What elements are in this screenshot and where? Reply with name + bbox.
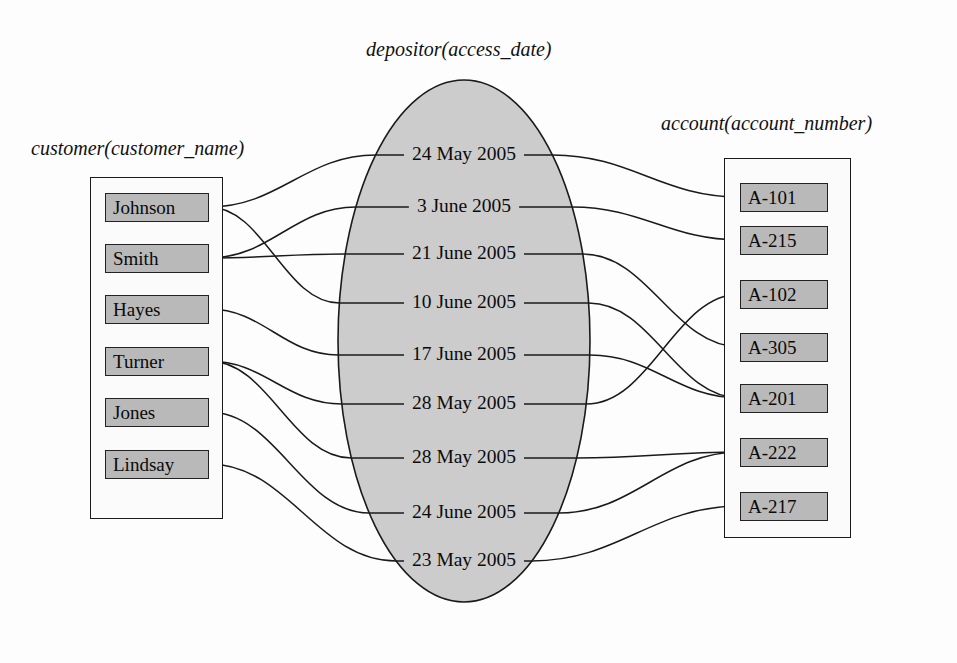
depositor-value-1[interactable]: 3 June 2005	[417, 195, 511, 217]
edge-date-account-5	[586, 294, 740, 404]
account-entity-title: account(account_number)	[661, 112, 872, 135]
depositor-value-4[interactable]: 17 June 2005	[412, 343, 516, 365]
edge-customer-date-4	[209, 309, 338, 355]
customer-value-3[interactable]: Turner	[105, 347, 209, 376]
depositor-relationship-title: depositor(access_date)	[366, 38, 552, 61]
account-value-3[interactable]: A-305	[740, 333, 828, 362]
edge-date-account-3	[589, 303, 740, 398]
edge-date-account-8	[532, 506, 740, 561]
customer-value-4[interactable]: Jones	[105, 398, 209, 427]
edge-date-account-1	[572, 207, 740, 240]
account-value-6[interactable]: A-217	[740, 492, 828, 521]
depositor-value-5[interactable]: 28 May 2005	[412, 392, 516, 414]
customer-value-1[interactable]: Smith	[105, 244, 209, 273]
customer-entity-title: customer(customer_name)	[31, 137, 244, 160]
customer-value-0[interactable]: Johnson	[105, 193, 209, 222]
edge-customer-date-5	[209, 361, 342, 404]
edge-customer-date-0	[209, 155, 376, 207]
edge-customer-date-6	[209, 361, 351, 458]
depositor-value-7[interactable]: 24 June 2005	[412, 501, 516, 523]
customer-value-5[interactable]: Lindsay	[105, 450, 209, 479]
edge-date-account-0	[552, 155, 740, 197]
depositor-value-2[interactable]: 21 June 2005	[412, 242, 516, 264]
depositor-value-0[interactable]: 24 May 2005	[412, 143, 516, 165]
account-value-4[interactable]: A-201	[740, 384, 828, 413]
depositor-value-8[interactable]: 23 May 2005	[412, 549, 516, 571]
depositor-value-6[interactable]: 28 May 2005	[412, 446, 516, 468]
edge-date-account-2	[583, 254, 740, 347]
edge-date-account-7	[559, 452, 740, 513]
depositor-value-3[interactable]: 10 June 2005	[412, 291, 516, 313]
account-value-2[interactable]: A-102	[740, 280, 828, 309]
edge-customer-date-2	[209, 207, 356, 258]
customer-value-2[interactable]: Hayes	[105, 295, 209, 324]
account-value-5[interactable]: A-222	[740, 438, 828, 467]
edge-date-account-4	[590, 355, 740, 398]
er-diagram-canvas: customer(customer_name) depositor(access…	[0, 0, 957, 663]
account-value-0[interactable]: A-101	[740, 183, 828, 212]
account-value-1[interactable]: A-215	[740, 226, 828, 255]
